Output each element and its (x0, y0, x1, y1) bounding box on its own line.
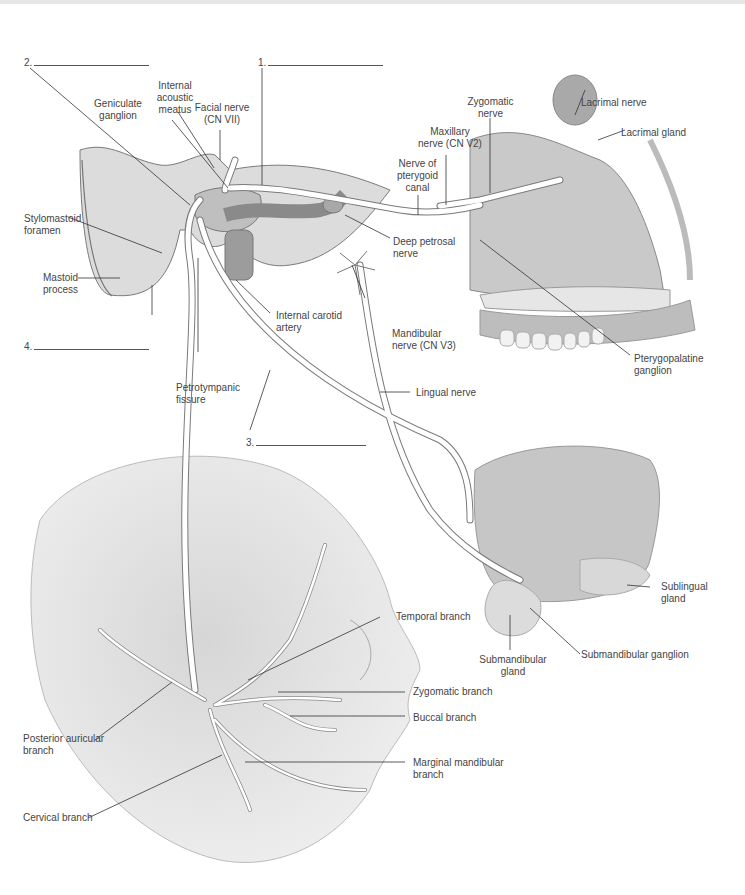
head (31, 456, 420, 862)
label-mandibular-nerve: Mandibular nerve (CN V3) (392, 328, 456, 352)
label-lingual-nerve: Lingual nerve (416, 387, 476, 399)
blank-3-line[interactable] (256, 445, 366, 446)
label-zygomatic-nerve: Zygomatic nerve (463, 96, 518, 120)
label-nerve-pterygoid-canal: Nerve of pterygoid canal (390, 158, 445, 194)
label-deep-petrosal-nerve: Deep petrosal nerve (393, 236, 455, 260)
blank-2-number: 2. (24, 57, 32, 68)
label-mastoid-process: Mastoid process (43, 272, 78, 296)
label-marginal-mandibular-branch: Marginal mandibular branch (413, 757, 504, 781)
blank-1-line[interactable] (268, 65, 383, 66)
blank-4-line[interactable] (34, 349, 149, 350)
label-petrotympanic-fissure: Petrotympanic fissure (176, 382, 240, 406)
tongue (474, 446, 659, 636)
label-buccal-branch: Buccal branch (413, 712, 476, 724)
label-maxillary-nerve: Maxillary nerve (CN V2) (415, 126, 485, 150)
label-submandibular-ganglion: Submandibular ganglion (581, 649, 689, 661)
blank-1-number: 1. (258, 57, 266, 68)
label-internal-carotid-artery: Internal carotid artery (276, 310, 342, 334)
label-lacrimal-nerve: Lacrimal nerve (581, 97, 647, 109)
label-geniculate-ganglion: Geniculate ganglion (88, 98, 148, 122)
label-cervical-branch: Cervical branch (23, 812, 92, 824)
label-facial-nerve: Facial nerve (CN VII) (192, 102, 252, 126)
label-stylomastoid-foramen: Stylomastoid foramen (24, 213, 81, 237)
label-pterygopalatine-ganglion: Pterygopalatine ganglion (634, 353, 704, 377)
label-zygomatic-branch: Zygomatic branch (413, 686, 492, 698)
label-lacrimal-gland: Lacrimal gland (621, 127, 686, 139)
label-submandibular-gland: Submandibular gland (478, 654, 548, 678)
blank-3-number: 3. (246, 437, 254, 448)
blank-2-line[interactable] (34, 65, 149, 66)
label-sublingual-gland: Sublingual gland (661, 581, 708, 605)
blank-4-number: 4. (24, 341, 32, 352)
label-posterior-auricular-branch: Posterior auricular branch (23, 733, 104, 757)
mandibular-nerve-shape (337, 251, 375, 295)
label-temporal-branch: Temporal branch (396, 611, 470, 623)
